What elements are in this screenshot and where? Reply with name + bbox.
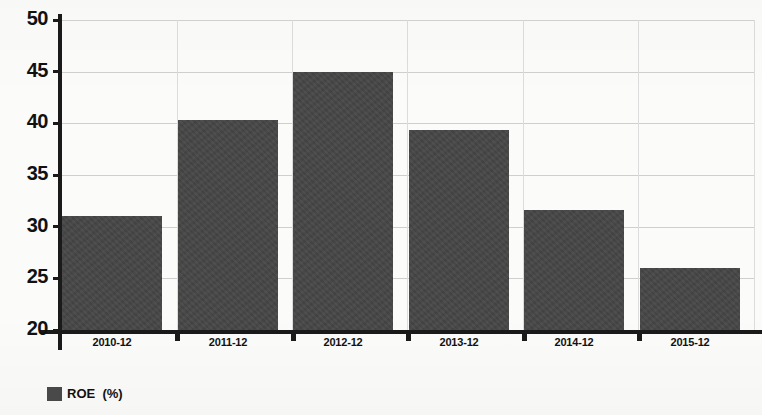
gridline-45 bbox=[62, 72, 755, 73]
bar-2012-12 bbox=[293, 72, 393, 330]
legend-label-roe: ROE (%) bbox=[67, 386, 123, 401]
plot-area bbox=[62, 20, 755, 330]
y-tick-45 bbox=[53, 70, 62, 73]
x-tick-label-2011-12: 2011-12 bbox=[178, 336, 278, 348]
bar-2013-12 bbox=[409, 130, 509, 330]
x-tick-label-2014-12: 2014-12 bbox=[524, 336, 624, 348]
gridline-40 bbox=[62, 123, 755, 124]
bar-2010-12 bbox=[62, 216, 162, 330]
y-tick-label-45: 45 bbox=[0, 59, 48, 82]
x-tick-label-2012-12: 2012-12 bbox=[293, 336, 393, 348]
chart-legend: ROE (%) bbox=[47, 386, 123, 401]
y-tick-25 bbox=[53, 277, 62, 280]
x-tick-label-2015-12: 2015-12 bbox=[640, 336, 740, 348]
y-tick-35 bbox=[53, 174, 62, 177]
bar-2015-12 bbox=[640, 268, 740, 330]
y-tick-20 bbox=[53, 329, 62, 332]
bar-2014-12 bbox=[524, 210, 624, 330]
y-tick-label-25: 25 bbox=[0, 265, 48, 288]
x-tick-label-2010-12: 2010-12 bbox=[62, 336, 162, 348]
y-axis-line bbox=[58, 14, 62, 350]
y-tick-label-50: 50 bbox=[0, 7, 48, 30]
y-tick-50 bbox=[53, 19, 62, 22]
gridline-50 bbox=[62, 20, 755, 21]
bar-chart: 50 45 40 35 30 25 20 2010-12 2011-12 201… bbox=[0, 0, 762, 415]
x-tick-label-2013-12: 2013-12 bbox=[409, 336, 509, 348]
bar-2011-12 bbox=[178, 120, 278, 330]
y-tick-label-30: 30 bbox=[0, 214, 48, 237]
y-tick-30 bbox=[53, 225, 62, 228]
y-tick-label-40: 40 bbox=[0, 110, 48, 133]
y-tick-label-20: 20 bbox=[0, 317, 48, 340]
legend-swatch-roe bbox=[47, 387, 62, 401]
y-tick-label-35: 35 bbox=[0, 162, 48, 185]
vertical-gridline bbox=[407, 20, 408, 330]
y-tick-40 bbox=[53, 122, 62, 125]
vertical-gridline bbox=[638, 20, 639, 330]
x-axis-line bbox=[40, 330, 762, 334]
vertical-gridline bbox=[754, 20, 755, 330]
